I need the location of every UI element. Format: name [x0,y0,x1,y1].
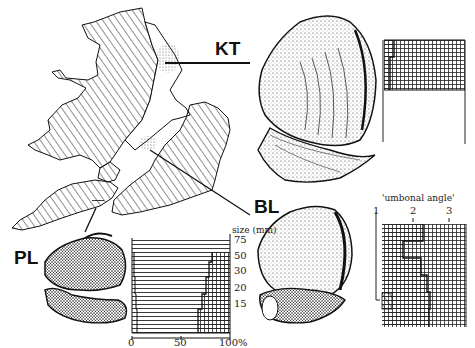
pl-size-chart [132,234,230,340]
site-label-pl: PL [14,247,38,269]
pl-ytick-30: 30 [234,265,247,276]
pl-ytick-15: 15 [234,298,247,309]
bl-umbonal-chart [376,212,466,327]
pl-leader-line [85,208,96,232]
bl-axis-title: 'umbonal angle' [382,193,455,203]
bl-xtick-2: 2 [410,205,416,216]
pl-xtick-0: 0 [128,337,134,348]
map-england-wales [12,8,230,230]
kt-umbonal-chart [383,40,465,144]
kt-shell-illustration [258,16,376,182]
map-site-kt [156,43,180,73]
pl-xtick-100: 100% [219,337,248,348]
pl-ytick-20: 20 [234,282,247,293]
pl-ytick-50: 50 [234,250,247,261]
site-label-bl: BL [254,196,279,218]
bl-shell-illustration [258,206,352,322]
map-site-pl [92,198,104,203]
pl-shell-illustration [45,233,126,322]
bl-xtick-1: 1 [373,205,379,216]
site-label-kt: KT [215,38,240,60]
pl-xtick-50: 50 [174,337,187,348]
map-site-bl [139,136,157,150]
map-region-south-west [12,180,118,230]
bl-xtick-3: 3 [446,205,452,216]
pl-ytick-75: 75 [234,234,247,245]
